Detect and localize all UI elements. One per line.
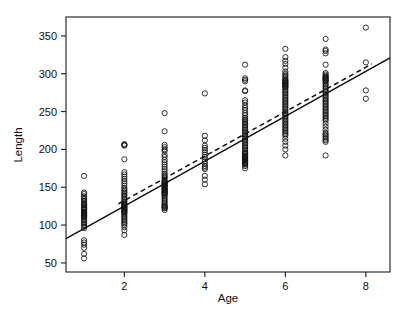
x-tick-label: 6 (282, 280, 288, 292)
scatter-plot-figure: 50100150200250300350 2468 Age Length (0, 0, 412, 319)
y-axis-title: Length (12, 127, 24, 162)
y-tick-label: 100 (39, 219, 57, 231)
y-tick-label: 350 (39, 30, 57, 42)
y-tick-label: 200 (39, 143, 57, 155)
y-tick-label: 50 (45, 257, 57, 269)
y-tick-label: 250 (39, 106, 57, 118)
x-tick-label: 4 (202, 280, 208, 292)
x-axis-title: Age (218, 292, 238, 304)
x-tick-label: 8 (363, 280, 369, 292)
x-tick-label: 2 (121, 280, 127, 292)
y-tick-label: 300 (39, 68, 57, 80)
y-tick-label: 150 (39, 181, 57, 193)
plot-canvas: 50100150200250300350 2468 Age Length (0, 0, 412, 319)
